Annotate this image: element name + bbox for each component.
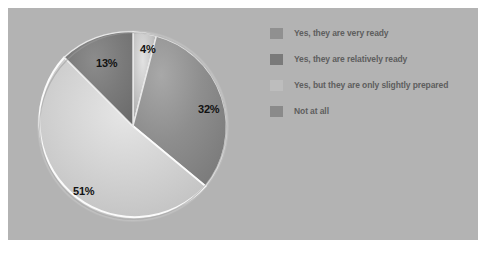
pie-label-32-percent: 32% bbox=[198, 103, 219, 115]
legend-swatch-icon-very-ready bbox=[270, 28, 283, 39]
legend-item-relatively-ready[interactable]: Yes, they are relatively ready bbox=[270, 48, 470, 70]
pie-label-51-percent: 51% bbox=[73, 185, 94, 197]
legend-item-slightly-prepared[interactable]: Yes, but they are only slightly prepared bbox=[270, 74, 470, 96]
legend-item-not-at-all[interactable]: Not at all bbox=[270, 100, 470, 122]
legend-label-relatively-ready: Yes, they are relatively ready bbox=[294, 54, 407, 64]
legend-swatch-icon-relatively-ready bbox=[270, 54, 283, 65]
pie-chart: 4% 13% 32% 51% bbox=[33, 28, 233, 224]
legend-label-slightly-prepared: Yes, but they are only slightly prepared bbox=[294, 80, 448, 90]
legend-swatch-icon-not-at-all bbox=[270, 106, 283, 117]
chart-legend: Yes, they are very ready Yes, they are r… bbox=[270, 22, 470, 126]
pie-label-13-percent: 13% bbox=[96, 57, 117, 69]
pie-chart-svg bbox=[33, 28, 233, 224]
legend-swatch-icon-slightly-prepared bbox=[270, 80, 283, 91]
legend-item-very-ready[interactable]: Yes, they are very ready bbox=[270, 22, 470, 44]
legend-label-very-ready: Yes, they are very ready bbox=[294, 28, 388, 38]
legend-label-not-at-all: Not at all bbox=[294, 106, 329, 116]
pie-label-4-percent: 4% bbox=[140, 43, 156, 55]
chart-panel: 4% 13% 32% 51% Yes, they are very ready … bbox=[8, 8, 478, 240]
